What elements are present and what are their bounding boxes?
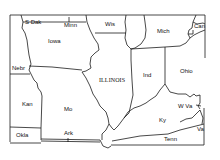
border-iowa-mo — [29, 66, 82, 70]
label-s-dak: S Dak — [25, 19, 41, 25]
label-illinois: ILLINOIS — [99, 77, 125, 83]
border-bottom — [10, 141, 100, 143]
border-mo-ark — [41, 139, 111, 148]
label-mo: Mo — [64, 106, 72, 112]
border-mo-bootheel — [102, 124, 109, 140]
label-wis: Wis — [105, 21, 115, 27]
map-right-edge — [204, 15, 205, 145]
lake-erie-shore — [180, 30, 205, 46]
border-illinois-ky — [109, 118, 124, 130]
border-iowa-illinois — [82, 22, 99, 72]
label-mich: Mich — [157, 28, 170, 34]
border-ky-va — [180, 110, 203, 124]
label-can: Can — [194, 23, 205, 29]
border-illinois-indiana — [124, 49, 133, 118]
label-nebr: Nebr — [12, 65, 25, 71]
border-mich-ind-ohio — [131, 46, 180, 49]
lake-michigan-east — [131, 15, 146, 49]
label-ark: Ark — [64, 130, 73, 136]
border-ind-ky — [124, 84, 165, 118]
label-va: Va — [197, 126, 204, 132]
label-w-va: W Va — [178, 103, 192, 109]
label-iowa: Iowa — [48, 38, 61, 44]
label-okla: Okla — [16, 132, 28, 138]
label-minn: Minn — [64, 22, 77, 28]
border-wva-east — [198, 95, 200, 109]
border-ohio-ky-wva — [165, 84, 200, 97]
lake-michigan-west — [125, 15, 131, 49]
border-kan-mo — [29, 70, 42, 128]
label-ky: Ky — [159, 117, 166, 123]
label-kan: Kan — [22, 101, 33, 107]
border-ky-tenn — [112, 124, 204, 141]
label-ohio: Ohio — [180, 68, 193, 74]
border-wva-tick — [196, 105, 201, 106]
border-minn-wis — [86, 15, 87, 22]
label-ind: Ind — [143, 72, 151, 78]
label-tenn: Tenn — [164, 136, 177, 142]
border-kan-okla — [10, 127, 41, 128]
